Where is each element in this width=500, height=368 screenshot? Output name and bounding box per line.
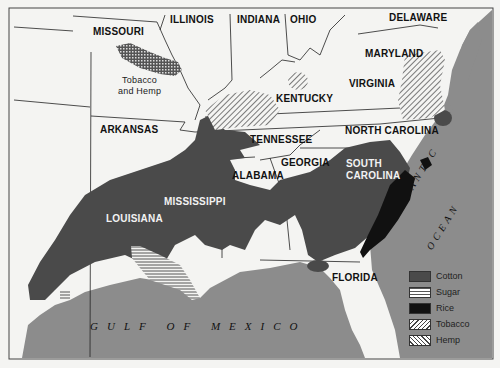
state-label-illinois: ILLINOIS [170, 14, 214, 25]
state-label-south-carolina: SOUTH CAROLINA [346, 158, 406, 182]
tobacco-hemp-annotation: Tobacco and Hemp [118, 75, 161, 97]
state-label-mississippi: MISSISSIPPI [164, 196, 226, 207]
tobacco-region-kentucky [288, 72, 308, 90]
tobacco-swatch [409, 319, 431, 330]
legend-label: Rice [436, 303, 454, 313]
state-label-missouri: MISSOURI [93, 26, 144, 37]
state-label-tennessee: TENNESSEE [250, 134, 312, 145]
legend-item-cotton: Cotton [409, 268, 489, 284]
state-label-delaware: DELAWARE [389, 12, 447, 23]
state-label-georgia: GEORGIA [281, 157, 330, 168]
cotton-swatch [409, 271, 431, 282]
cotton-region-fl [307, 260, 329, 272]
state-label-kentucky: KENTUCKY [276, 93, 333, 104]
state-label-florida: FLORIDA [332, 272, 378, 283]
state-label-virginia: VIRGINIA [349, 78, 395, 89]
state-label-alabama: ALABAMA [232, 170, 284, 181]
legend-item-tobacco: Tobacco [409, 316, 489, 332]
legend-item-rice: Rice [409, 300, 489, 316]
gulf-of-mexico-label: GULF OF MEXICO [90, 320, 306, 332]
legend-label: Sugar [436, 287, 460, 297]
rice-swatch [409, 303, 431, 314]
legend-label: Hemp [436, 335, 460, 345]
state-label-arkansas: ARKANSAS [100, 124, 158, 135]
state-label-indiana: INDIANA [237, 14, 280, 25]
legend: Cotton Sugar Rice Tobacco Hemp [409, 268, 489, 348]
tobacco-region-virginia [398, 50, 445, 120]
legend-item-hemp: Hemp [409, 332, 489, 348]
annotation-line-1: Tobacco [118, 75, 161, 86]
state-label-ohio: OHIO [290, 14, 316, 25]
sugar-region-texas [60, 290, 70, 300]
annotation-line-2: and Hemp [118, 86, 161, 97]
legend-label: Cotton [436, 271, 463, 281]
state-label-maryland: MARYLAND [365, 48, 423, 59]
sugar-swatch [409, 287, 431, 298]
state-label-north-carolina: NORTH CAROLINA [345, 125, 439, 136]
hemp-swatch [409, 335, 431, 346]
legend-label: Tobacco [436, 319, 470, 329]
state-label-louisiana: LOUISIANA [106, 213, 163, 224]
legend-item-sugar: Sugar [409, 284, 489, 300]
